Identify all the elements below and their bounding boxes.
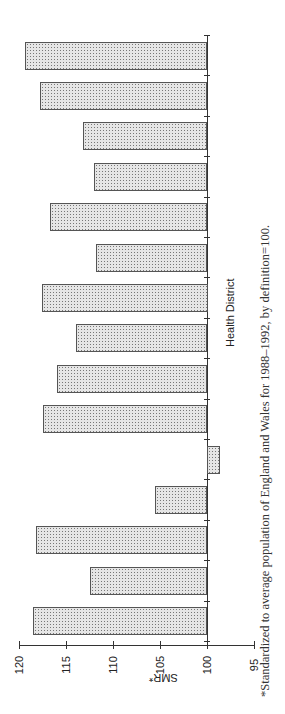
bar-district-13 xyxy=(83,122,207,150)
x-axis-label: Health District xyxy=(224,279,236,347)
category-tick xyxy=(204,277,210,278)
category-tick xyxy=(204,197,210,198)
value-tick xyxy=(160,641,161,649)
category-tick xyxy=(204,439,210,440)
category-tick xyxy=(204,318,210,319)
value-tick xyxy=(113,641,114,649)
category-tick xyxy=(204,520,210,521)
bar-district-8 xyxy=(76,324,208,352)
category-tick xyxy=(204,479,210,480)
value-tick-label: 100 xyxy=(201,650,213,680)
category-tick xyxy=(204,358,210,359)
bar-district-12 xyxy=(94,163,208,191)
value-tick xyxy=(19,641,20,649)
footnote: *Standardized to average population of E… xyxy=(258,225,273,697)
value-tick-label: 120 xyxy=(13,650,25,680)
category-tick xyxy=(204,116,210,117)
category-tick xyxy=(204,399,210,400)
bar-district-14 xyxy=(40,82,207,110)
category-tick xyxy=(204,237,210,238)
bar-district-10 xyxy=(96,244,208,272)
bar-district-5 xyxy=(207,446,220,474)
value-tick xyxy=(207,641,208,649)
category-tick xyxy=(204,156,210,157)
value-tick xyxy=(254,641,255,649)
bar-district-7 xyxy=(57,365,207,393)
bar-district-6 xyxy=(43,405,208,433)
category-tick xyxy=(204,75,210,76)
value-tick xyxy=(66,641,67,649)
bar-district-2 xyxy=(90,567,208,595)
value-tick-label: 110 xyxy=(107,650,119,680)
bar-district-1 xyxy=(33,607,208,635)
bar-district-4 xyxy=(155,486,208,514)
bar-district-11 xyxy=(50,203,207,231)
bar-district-9 xyxy=(42,284,208,312)
y-axis-label: SMR* xyxy=(149,672,178,684)
bar-district-3 xyxy=(36,526,207,554)
category-tick xyxy=(204,35,210,36)
value-tick-label: 115 xyxy=(60,650,72,680)
bar-district-15 xyxy=(25,42,207,70)
value-axis-line xyxy=(19,645,254,646)
category-tick xyxy=(204,560,210,561)
category-tick xyxy=(204,601,210,602)
